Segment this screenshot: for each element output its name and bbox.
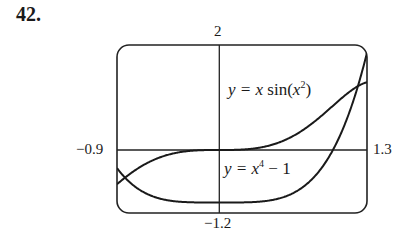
curve-x-fourth-minus-one xyxy=(117,53,367,203)
x-min-label: −0.9 xyxy=(76,141,103,158)
curve-label-x-fourth-minus-one: y = x4 − 1 xyxy=(224,158,291,179)
plot-area xyxy=(0,0,409,234)
curve-label-x-sin-x-squared: y = x sin(x2) xyxy=(228,79,311,100)
viewing-window-frame xyxy=(117,45,367,213)
x-max-label: 1.3 xyxy=(373,141,392,158)
y-min-label: −1.2 xyxy=(204,215,231,232)
y-max-label: 2 xyxy=(214,23,222,40)
